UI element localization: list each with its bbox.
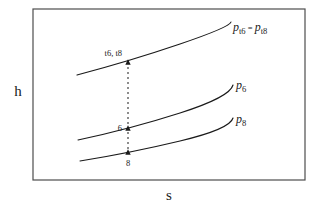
curve-static-pressure-6-line [78,85,233,140]
x-axis-label: s [166,187,172,203]
y-axis-label: h [14,83,22,99]
curve-label-static-pressure-8: p8 [235,112,246,128]
curve-label-static-pressure-6: p6 [235,78,246,94]
state-label-6: 6 [118,123,122,133]
diagram-canvas: pt6 = pt8 p6 p8 t6, t8 6 8 h s [0,0,323,210]
state-label-8: 8 [126,158,130,168]
state-label-t6-t8: t6, t8 [105,48,122,58]
hs-diagram-figure: pt6 = pt8 p6 p8 t6, t8 6 8 h s [0,0,323,210]
curve-label-total-pressure: pt6 = pt8 [232,20,267,36]
curve-total-pressure-line [77,22,231,75]
curve-static-pressure-8-line [80,118,233,161]
